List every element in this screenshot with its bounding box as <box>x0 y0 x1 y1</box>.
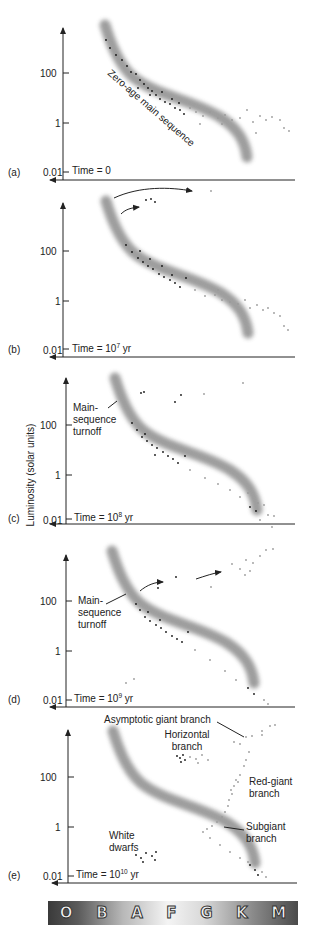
y-tick-100: 100 <box>40 596 57 607</box>
subgiant-branch-label: Subgiantbranch <box>246 821 286 844</box>
y-tick-1: 1 <box>55 822 61 833</box>
panel-tag: (e) <box>8 870 20 881</box>
spectral-class-m: M <box>271 904 286 922</box>
spectral-class-a: A <box>131 904 143 922</box>
time-label: Time = 108 yr <box>74 511 134 523</box>
y-tick-0-01: 0.01 <box>43 695 63 706</box>
spectral-class-bar: O B A F G K M <box>48 901 298 925</box>
panel-c: 100 1 0.01 (c) Time = 108 yr Main-sequen… <box>8 378 295 528</box>
y-axis-label: Luminosity (solar units) <box>25 424 36 527</box>
panel-tag: (b) <box>8 344 20 355</box>
hr-diagram-evolution-figure: 100 1 0.01 (a) Time = 0 Zero-age main se… <box>0 0 313 930</box>
y-tick-100: 100 <box>40 68 57 79</box>
time-label: Time = 0 <box>72 165 111 176</box>
panel-a: 100 1 0.01 (a) Time = 0 Zero-age main se… <box>8 25 295 180</box>
spectral-class-o: O <box>60 904 73 922</box>
y-tick-1: 1 <box>55 470 61 481</box>
asymptotic-giant-branch-label: Asymptotic giant branch <box>104 714 211 725</box>
spectral-class-b: B <box>96 904 107 922</box>
panel-d: 100 1 0.01 (d) Time = 109 yr Main-sequen… <box>8 548 295 707</box>
time-label: Time = 109 yr <box>74 692 134 704</box>
main-sequence-turnoff-label: Main-sequenceturnoff <box>73 402 117 437</box>
y-tick-100: 100 <box>40 420 57 431</box>
zero-age-main-sequence-label: Zero-age main sequence <box>106 67 197 149</box>
spectral-class-f: F <box>166 904 176 922</box>
y-tick-0-01: 0.01 <box>43 871 63 882</box>
panel-tag: (a) <box>8 167 20 178</box>
panel-tag: (d) <box>8 694 20 705</box>
spectral-class-g: G <box>200 904 212 922</box>
y-tick-0-01: 0.01 <box>43 167 63 178</box>
time-label: Time = 107 yr <box>72 342 132 354</box>
y-tick-1: 1 <box>55 118 61 129</box>
horizontal-branch-label: Horizontalbranch <box>164 729 209 752</box>
y-tick-100: 100 <box>40 772 57 783</box>
red-giant-branch-label: Red-giantbranch <box>249 776 293 799</box>
spectral-class-k: K <box>236 904 248 922</box>
y-tick-1: 1 <box>55 646 61 657</box>
panel-b: 100 1 0.01 (b) Time = 107 yr <box>8 188 295 357</box>
main-sequence-turnoff-label: Main-sequenceturnoff <box>78 595 122 630</box>
y-tick-0-01: 0.01 <box>43 515 63 526</box>
time-label: Time = 1010 yr <box>76 868 139 880</box>
panel-tag: (c) <box>8 513 20 524</box>
y-tick-1: 1 <box>55 296 61 307</box>
panel-e: 100 1 0.01 (e) Time = 1010 yr Asymptotic… <box>8 714 297 883</box>
y-tick-100: 100 <box>40 246 57 257</box>
y-tick-0-01: 0.01 <box>43 345 63 356</box>
white-dwarfs-label: Whitedwarfs <box>109 830 138 853</box>
